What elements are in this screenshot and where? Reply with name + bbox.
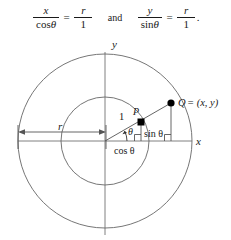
fraction-r-over-1: r 1 <box>74 5 92 30</box>
sin-theta-label: sin θ <box>144 128 163 139</box>
fraction-numerator-y: y <box>144 5 155 17</box>
equation-x-over-cos-theta: x cosθ = r 1 <box>32 5 94 30</box>
cos-theta-label: cos θ <box>114 145 135 156</box>
fraction-numerator-x: x <box>41 5 52 17</box>
angle-theta-label: θ <box>128 126 133 137</box>
point-p-marker <box>138 119 145 126</box>
equation-row: x cosθ = r 1 and y sinθ = r 1 <box>0 0 231 34</box>
x-axis-label: x <box>195 135 201 147</box>
fraction-denominator-cos-theta: cosθ <box>33 18 59 30</box>
radius-r-label: r <box>58 120 63 132</box>
equation-y-over-sin-theta: y sinθ = r 1 . <box>136 5 199 30</box>
fraction-denominator-1: 1 <box>180 18 192 30</box>
equals-sign: = <box>167 12 173 23</box>
theta-symbol: θ <box>154 18 159 30</box>
fraction-numerator-r: r <box>78 5 88 17</box>
fraction-r-over-1: r 1 <box>177 5 195 30</box>
fraction-denominator-sin-theta: sinθ <box>138 18 162 30</box>
point-q-marker <box>167 99 174 106</box>
fraction-y-over-sin-theta: y sinθ <box>138 5 162 30</box>
coordinate-diagram: y x P Q = (x, y) 1 r θ sin θ cos θ <box>0 30 231 240</box>
right-angle-mark-q <box>165 135 172 142</box>
trailing-period: . <box>197 12 200 23</box>
fraction-denominator-1: 1 <box>78 18 90 30</box>
theta-symbol: θ <box>51 18 56 30</box>
point-q-coordinates-label: = (x, y) <box>187 97 219 109</box>
conjunction-and: and <box>108 12 122 23</box>
figure-root: x cosθ = r 1 and y sinθ = r 1 <box>0 0 231 240</box>
cos-function-name: cos <box>36 18 51 30</box>
right-angle-mark-p <box>135 135 142 142</box>
equals-sign: = <box>64 12 70 23</box>
angle-theta-arrowhead <box>123 131 128 134</box>
sin-function-name: sin <box>141 18 154 30</box>
point-p-label: P <box>132 106 139 117</box>
fraction-numerator-r: r <box>181 5 191 17</box>
fraction-x-over-cos-theta: x cosθ <box>33 5 59 30</box>
point-q-label: Q <box>178 97 186 108</box>
unit-hypotenuse-label: 1 <box>119 111 124 122</box>
y-axis-label: y <box>111 38 117 50</box>
